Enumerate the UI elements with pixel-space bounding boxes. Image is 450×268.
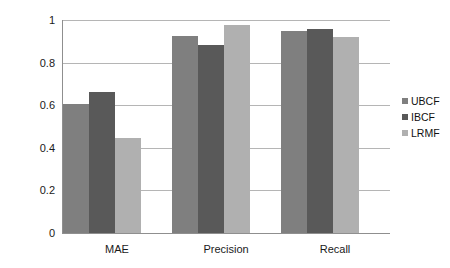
gridline-0-axis	[63, 233, 390, 234]
bar-lrmf-recall	[333, 37, 359, 233]
bar-group-mae	[63, 20, 172, 233]
bar-ibcf-precision	[198, 45, 224, 234]
y-tick-label: 0.8	[9, 57, 55, 69]
bar-chart: 1 0.8 0.6 0.4 0.2 0	[0, 0, 450, 268]
x-tick-label-recall: Recall	[320, 243, 351, 255]
legend-swatch-ubcf	[402, 98, 408, 104]
y-tick-label: 0	[9, 227, 55, 239]
bar-ubcf-recall	[281, 31, 307, 233]
legend-label-ubcf: UBCF	[411, 96, 440, 107]
y-tick-label: 0.6	[9, 99, 55, 111]
legend: UBCF IBCF LRMF	[402, 94, 450, 142]
bar-ibcf-mae	[89, 92, 115, 233]
legend-label-lrmf: LRMF	[411, 128, 440, 139]
y-tick-label: 0.2	[9, 184, 55, 196]
y-tick-label: 1	[9, 14, 55, 26]
y-tick-label: 0.4	[9, 142, 55, 154]
bar-lrmf-precision	[224, 25, 250, 233]
x-tick-label-mae: MAE	[105, 243, 129, 255]
legend-item-ibcf: IBCF	[402, 110, 450, 124]
bar-ubcf-precision	[172, 36, 198, 233]
bar-ibcf-recall	[307, 29, 333, 233]
legend-item-lrmf: LRMF	[402, 126, 450, 140]
legend-label-ibcf: IBCF	[411, 112, 435, 123]
x-tick-label-precision: Precision	[203, 243, 248, 255]
legend-swatch-ibcf	[402, 114, 408, 120]
bar-group-precision	[172, 20, 281, 233]
bar-ubcf-mae	[63, 104, 89, 233]
bar-group-recall	[281, 20, 390, 233]
legend-item-ubcf: UBCF	[402, 94, 450, 108]
bar-lrmf-mae	[115, 138, 141, 233]
y-axis-tick-labels: 1 0.8 0.6 0.4 0.2 0	[0, 20, 55, 233]
plot-area	[63, 20, 390, 233]
legend-swatch-lrmf	[402, 130, 408, 136]
